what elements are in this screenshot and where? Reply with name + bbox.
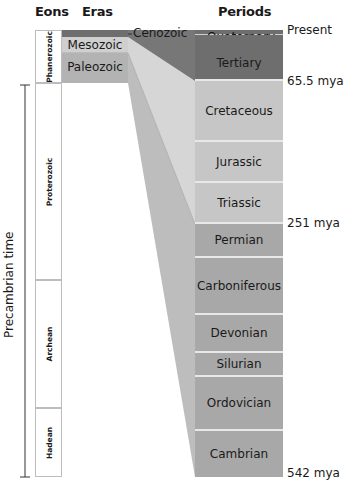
period-label: Triassic: [217, 196, 261, 210]
period-label: Cretaceous: [205, 104, 273, 118]
eon-hadean: Hadean: [35, 408, 62, 477]
period-permian: Permian: [195, 224, 283, 258]
eon-archean: Archean: [35, 280, 62, 408]
eon-label: Hadean: [44, 426, 53, 458]
precambrian-label: Precambrian time: [2, 229, 16, 342]
period-carboniferous: Carboniferous: [195, 258, 283, 315]
era-paleozoic: Paleozoic: [62, 53, 128, 83]
period-label: Jurassic: [216, 155, 262, 169]
eon-phanerozoic: Phanerozoic: [35, 30, 62, 83]
time-label-65-5-mya: 65.5 mya: [287, 74, 344, 88]
period-ordovician: Ordovician: [195, 377, 283, 431]
time-label-542-mya: 542 mya: [287, 466, 340, 480]
era-cenozoic: [62, 30, 128, 37]
eon-label: Archean: [44, 327, 53, 362]
period-cambrian: Cambrian: [195, 431, 283, 477]
period-label: Cambrian: [210, 447, 268, 461]
eon-label: Proterozoic: [44, 157, 53, 205]
period-label: Silurian: [216, 357, 261, 371]
eon-label: Phanerozoic: [44, 31, 53, 83]
period-label: Devonian: [211, 326, 268, 340]
time-label-present: Present: [287, 23, 332, 37]
era-mesozoic: Mesozoic: [62, 37, 128, 53]
period-triassic: Triassic: [195, 183, 283, 224]
period-tertiary: Tertiary: [195, 35, 283, 81]
period-silurian: Silurian: [195, 353, 283, 377]
period-label: Carboniferous: [197, 279, 281, 293]
period-label: Tertiary: [216, 56, 261, 70]
cenozoic-label: Cenozoic: [133, 26, 187, 40]
time-label-251-mya: 251 mya: [287, 216, 340, 230]
period-jurassic: Jurassic: [195, 142, 283, 183]
period-label: Ordovician: [207, 396, 271, 410]
precambrian-label-wrap: Precambrian time: [0, 281, 50, 295]
period-label: Permian: [215, 233, 264, 247]
eon-proterozoic: Proterozoic: [35, 83, 62, 280]
period-cretaceous: Cretaceous: [195, 81, 283, 142]
period-devonian: Devonian: [195, 315, 283, 353]
